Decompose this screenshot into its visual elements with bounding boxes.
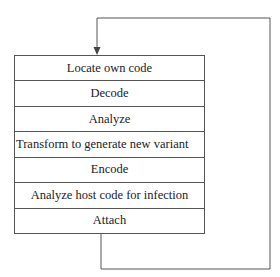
arrowhead-icon [94, 47, 101, 55]
step-analyze: Analyze [15, 107, 204, 132]
metamorphic-virus-flow-diagram: Locate own code Decode Analyze Transform… [0, 0, 280, 277]
step-transform: Transform to generate new variant [15, 132, 204, 157]
step-encode: Encode [15, 158, 204, 183]
step-decode: Decode [15, 81, 204, 106]
step-analyze-host-code: Analyze host code for infection [15, 183, 204, 208]
step-attach: Attach [15, 209, 204, 233]
step-locate-own-code: Locate own code [15, 56, 204, 81]
step-stack: Locate own code Decode Analyze Transform… [14, 55, 205, 234]
